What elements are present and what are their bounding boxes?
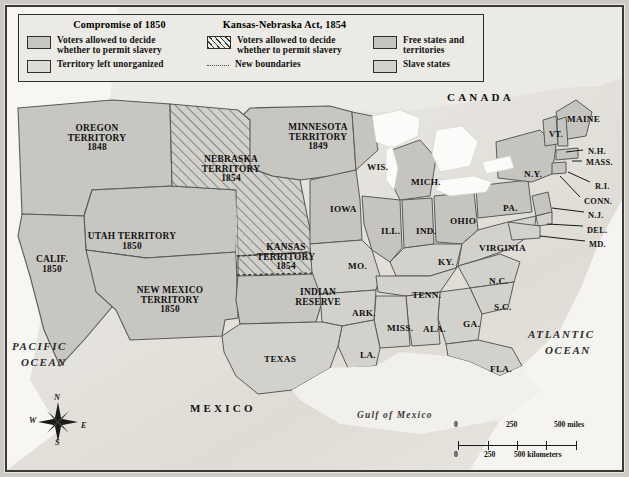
map-canvas: Compromise of 1850 Kansas-Nebraska Act, … xyxy=(0,0,629,477)
map-outer-frame xyxy=(0,0,629,477)
